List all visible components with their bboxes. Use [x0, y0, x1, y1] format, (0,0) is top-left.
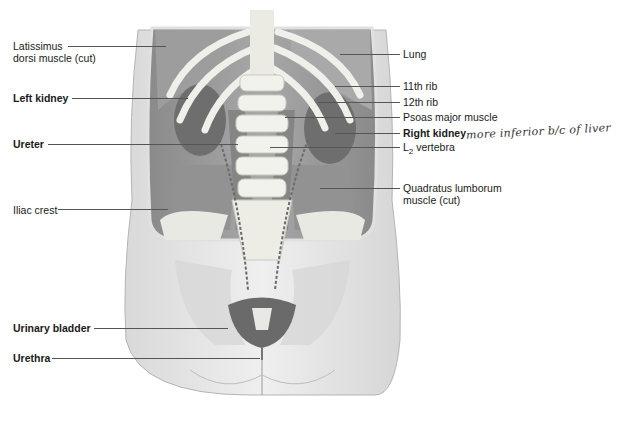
label-left-kidney: Left kidney [13, 92, 68, 104]
iliac-left [160, 211, 228, 240]
leader-12th-rib [318, 102, 400, 103]
leader-left-kidney [72, 98, 188, 99]
leader-quadratus [320, 188, 400, 189]
label-text-rest: vertebra [413, 141, 454, 153]
label-text-2: muscle (cut) [403, 194, 460, 206]
leader-urethra [52, 358, 260, 359]
leader-right-kidney [335, 133, 400, 134]
leader-iliac-crest [58, 209, 168, 210]
leader-latissimus [68, 46, 166, 47]
leader-l2-vertebra [270, 147, 400, 148]
label-ureter: Ureter [13, 138, 44, 150]
label-text-2: dorsi muscle (cut) [13, 52, 96, 64]
iliac-right [296, 211, 365, 240]
label-psoas: Psoas major muscle [403, 111, 498, 123]
label-urethra: Urethra [13, 352, 50, 364]
label-iliac-crest: Iliac crest [13, 204, 57, 216]
leader-lung [340, 54, 400, 55]
label-11th-rib: 11th rib [403, 80, 437, 92]
spine [250, 10, 274, 80]
label-l2-vertebra: L2 vertebra [403, 141, 455, 158]
leader-ureter [48, 144, 238, 145]
leader-11th-rib [335, 86, 400, 87]
label-text: Quadratus lumborum [403, 182, 502, 194]
label-text: Latissimus [13, 40, 63, 52]
label-latissimus: Latissimus dorsi muscle (cut) [13, 40, 96, 64]
leader-psoas [285, 117, 400, 118]
label-urinary-bladder: Urinary bladder [13, 322, 91, 334]
label-right-kidney: Right kidney [403, 127, 466, 139]
label-12th-rib: 12th rib [403, 96, 438, 108]
label-lung: Lung [403, 48, 426, 60]
label-quadratus: Quadratus lumborum muscle (cut) [403, 182, 502, 206]
leader-urinary-bladder [94, 328, 228, 329]
